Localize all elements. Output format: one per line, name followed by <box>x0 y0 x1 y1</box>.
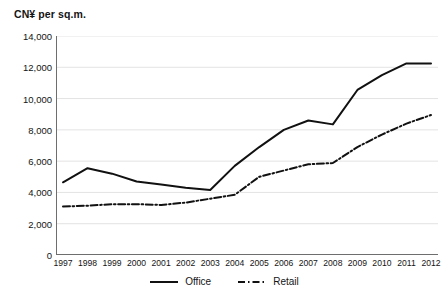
chart-axis-unit-title: CN¥ per sq.m. <box>14 8 86 20</box>
x-axis-tick-label: 2002 <box>176 258 195 268</box>
x-axis-tick-label: 2006 <box>274 258 293 268</box>
x-axis-tick-label: 2004 <box>225 258 244 268</box>
series-line-office <box>63 63 431 190</box>
x-axis-tick-label: 1999 <box>103 258 122 268</box>
legend-item-retail[interactable]: Retail <box>237 276 299 287</box>
legend-line-dashdot-icon <box>237 277 267 287</box>
gridlines <box>56 36 438 255</box>
line-chart: CN¥ per sq.m. 02,0004,0006,0008,00010,00… <box>0 0 448 299</box>
x-axis-tick-label: 2009 <box>348 258 367 268</box>
x-axis-tick-labels: 1997199819992000200120022003200420052006… <box>56 258 438 272</box>
x-axis-tick-label: 2003 <box>201 258 220 268</box>
x-axis-tick-label: 1998 <box>78 258 97 268</box>
y-axis-tick-label: 10,000 <box>23 93 52 104</box>
x-axis-tick-label: 1997 <box>53 258 72 268</box>
y-axis-tick-label: 14,000 <box>23 31 52 42</box>
y-axis-tick-label: 6,000 <box>28 156 52 167</box>
y-axis-tick-labels: 02,0004,0006,0008,00010,00012,00014,000 <box>0 36 52 255</box>
y-axis-tick-label: 2,000 <box>28 218 52 229</box>
legend-item-office[interactable]: Office <box>149 276 211 287</box>
y-axis-tick-label: 0 <box>47 250 52 261</box>
legend-label-office: Office <box>185 276 211 287</box>
y-axis-tick-label: 8,000 <box>28 124 52 135</box>
x-axis-tick-label: 2001 <box>152 258 171 268</box>
chart-legend: Office Retail <box>0 276 448 287</box>
x-axis-tick-label: 2007 <box>299 258 318 268</box>
plot-svg <box>56 36 438 255</box>
y-axis-tick-label: 4,000 <box>28 187 52 198</box>
plot-area <box>56 36 438 255</box>
x-axis-tick-label: 2011 <box>397 258 415 268</box>
x-axis-tick-label: 2005 <box>250 258 269 268</box>
y-axis-tick-label: 12,000 <box>23 62 52 73</box>
legend-line-solid-icon <box>149 277 179 287</box>
data-series-paths <box>63 63 431 206</box>
legend-label-retail: Retail <box>273 276 299 287</box>
x-axis-tick-label: 2010 <box>372 258 391 268</box>
x-axis-tick-label: 2008 <box>323 258 342 268</box>
x-axis-tick-label: 2012 <box>421 258 440 268</box>
x-axis-tick-label: 2000 <box>127 258 146 268</box>
